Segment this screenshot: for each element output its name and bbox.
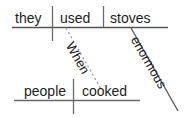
subordinate-clause-verb: cooked [82,84,127,98]
main-clause-subject: they [15,11,41,25]
main-clause-verb: used [60,11,90,25]
sentence-diagram: they used stoves people cooked When enor… [0,0,187,117]
subordinate-clause-subject: people [24,84,66,98]
main-clause-direct-object: stoves [110,11,150,25]
